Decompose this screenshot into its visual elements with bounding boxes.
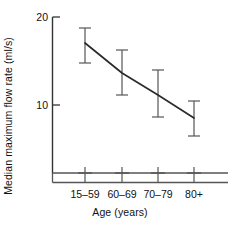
x-tick-label-15-59: 15–59 <box>70 188 99 200</box>
x-tick-label-60-69: 60–69 <box>107 188 136 200</box>
y-axis-title: Median maximum flow rate (ml/s) <box>0 0 16 232</box>
y-tick-label-20: 20 <box>22 11 48 23</box>
error-bar-2 <box>152 70 164 117</box>
x-tick-label-70-79: 70–79 <box>143 188 172 200</box>
x-tick-label-80-plus: 80+ <box>185 188 203 200</box>
data-line-series-0 <box>85 43 194 118</box>
y-tick-label-10: 10 <box>22 99 48 111</box>
x-axis-title: Age (years) <box>0 206 240 218</box>
chart-figure: 20 10 15–59 60–69 70–79 80+ Median maxim… <box>0 0 240 232</box>
